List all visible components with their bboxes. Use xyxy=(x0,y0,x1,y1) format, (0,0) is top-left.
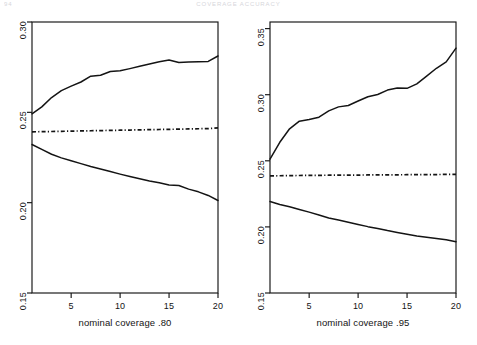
y-tick-label: 0.15 xyxy=(18,292,28,332)
x-axis-title-left: nominal coverage .80 xyxy=(32,317,218,328)
y-tick-label: 0.30 xyxy=(18,21,28,61)
y-tick-label: 0.20 xyxy=(18,202,28,242)
x-tick-label: 5 xyxy=(56,301,86,311)
chart-panel-left: nominal coverage .80 0.150.200.250.30510… xyxy=(0,0,238,345)
x-tick-label: 20 xyxy=(441,301,471,311)
y-tick-label: 0.35 xyxy=(256,28,266,68)
x-tick-label: 15 xyxy=(392,301,422,311)
y-tick-label: 0.25 xyxy=(18,111,28,151)
x-tick-label: 10 xyxy=(105,301,135,311)
data-series-middle xyxy=(270,174,456,176)
y-tick-label: 0.25 xyxy=(256,160,266,200)
data-series-lower xyxy=(270,202,456,242)
x-tick-label: 10 xyxy=(343,301,373,311)
y-tick-label: 0.30 xyxy=(256,94,266,134)
plot-frame xyxy=(270,22,456,293)
chart-panel-right: nominal coverage .95 0.150.200.250.300.3… xyxy=(238,0,477,345)
data-series-middle xyxy=(32,128,218,132)
y-tick-label: 0.20 xyxy=(256,226,266,266)
data-series-lower xyxy=(32,144,218,200)
data-series-upper xyxy=(270,48,456,159)
figure-root: 94 COVERAGE ACCURACY nominal coverage .8… xyxy=(0,0,477,345)
plot-area-right xyxy=(238,0,477,345)
x-tick-label: 20 xyxy=(203,301,233,311)
x-tick-label: 15 xyxy=(154,301,184,311)
y-tick-label: 0.15 xyxy=(256,292,266,332)
data-series-upper xyxy=(32,56,218,114)
plot-area-left xyxy=(0,0,238,345)
x-axis-title-right: nominal coverage .95 xyxy=(270,317,456,328)
x-tick-label: 5 xyxy=(294,301,324,311)
